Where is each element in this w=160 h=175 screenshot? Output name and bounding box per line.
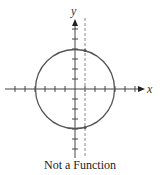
y-axis-label: y bbox=[70, 4, 77, 18]
x-axis-label: x bbox=[146, 82, 153, 96]
y-axis-arrow-icon bbox=[72, 19, 78, 26]
y-axis: y bbox=[70, 4, 78, 158]
x-axis-arrow-icon bbox=[138, 86, 145, 92]
intersection-point-bottom bbox=[83, 126, 86, 129]
x-axis: x bbox=[5, 82, 153, 96]
intersection-point-top bbox=[83, 49, 86, 52]
circle-graph-diagram: x y bbox=[0, 0, 160, 175]
diagram-caption: Not a Function bbox=[0, 158, 160, 172]
